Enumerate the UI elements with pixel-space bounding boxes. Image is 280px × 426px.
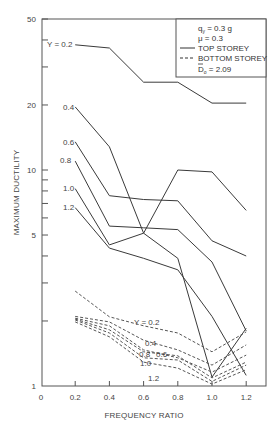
- x-axis-title: FREQUENCY RATIO: [104, 411, 183, 420]
- curve-label-bottom: 0.6: [156, 350, 168, 359]
- y-tick-label: 1: [32, 382, 37, 391]
- ductility-chart: 00.20.40.60.81.01.215102050FREQUENCY RAT…: [0, 0, 280, 426]
- x-tick-label: 1.2: [241, 393, 253, 402]
- curve-label-bottom: 0.4: [145, 339, 157, 348]
- series-lines: [75, 45, 246, 384]
- curve-label-top: 1.2: [63, 203, 75, 212]
- x-tick-label: 0.8: [172, 393, 184, 402]
- legend: qy = 0.3 gμ = 0.3TOP STOREYBOTTOM STOREY…: [176, 19, 268, 77]
- curve-label-top: 0.8: [60, 156, 72, 165]
- x-tick-label: 0: [39, 393, 44, 402]
- series-line: [75, 291, 246, 352]
- legend-top-storey: TOP STOREY: [198, 44, 250, 53]
- y-tick-label: 20: [27, 101, 36, 110]
- x-tick-label: 0.6: [138, 393, 150, 402]
- y-axis-title: MAXIMUM DUCTILITY: [12, 149, 21, 235]
- curve-label-bottom: 1.0: [140, 359, 152, 368]
- legend-d0: Do = 2.09: [198, 65, 232, 75]
- curve-label-bottom: 1.2: [148, 374, 160, 383]
- curve-label-top: 0.6: [63, 138, 75, 147]
- y-tick-label: 10: [27, 166, 36, 175]
- y-tick-label: 50: [27, 15, 36, 24]
- curve-label-top: 1.0: [63, 184, 75, 193]
- curve-label-top: 0.4: [63, 103, 75, 112]
- series-line: [75, 142, 246, 256]
- curve-labels: Y = 0.20.40.60.81.01.2Y = 0.20.40.80.61.…: [47, 40, 168, 383]
- series-line: [75, 189, 246, 378]
- y-tick-label: 5: [32, 231, 37, 240]
- curve-label-bottom: Y = 0.2: [134, 318, 160, 327]
- curve-label-top: Y = 0.2: [47, 40, 73, 49]
- x-tick-label: 0.4: [104, 393, 116, 402]
- x-tick-label: 1.0: [206, 393, 218, 402]
- legend-bottom-storey: BOTTOM STOREY: [198, 54, 268, 63]
- series-line: [75, 107, 246, 233]
- x-tick-label: 0.2: [70, 393, 82, 402]
- series-line: [75, 319, 246, 378]
- legend-mu: μ = 0.3: [198, 34, 223, 43]
- curve-label-bottom: 0.8: [139, 350, 151, 359]
